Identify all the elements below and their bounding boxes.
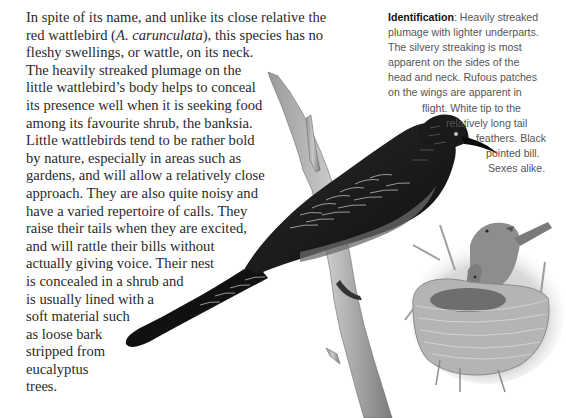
nest-scene xyxy=(405,222,565,392)
identification-caption: Identification: Heavily streaked plumage… xyxy=(388,10,554,176)
text-line: In spite of its name, and unlike its clo… xyxy=(26,9,326,27)
caption-line: on the wings are apparent in xyxy=(388,85,554,100)
caption-line: The silvery streaking is most xyxy=(388,40,554,55)
text-line: trees. xyxy=(26,378,326,396)
identification-label: Identification xyxy=(388,11,454,23)
text-line: red wattlebird (A. carunculata), this sp… xyxy=(26,27,326,45)
text-line: is usually lined with a xyxy=(26,291,326,309)
caption-line: head and neck. Rufous patches xyxy=(388,70,554,85)
caption-line: Identification: Heavily streaked xyxy=(388,10,554,25)
text-line: raise their tails when they are excited, xyxy=(26,220,326,238)
text-line: fleshy swellings, or wattle, on its neck… xyxy=(26,44,326,62)
text-line: little wattlebird’s body helps to concea… xyxy=(26,79,326,97)
text-line: its presence well when it is seeking foo… xyxy=(26,97,326,115)
text-line: approach. They are also quite noisy and xyxy=(26,185,326,203)
text-line: stripped from xyxy=(26,343,326,361)
text-line: as loose bark xyxy=(26,326,326,344)
text-line: soft material such xyxy=(26,308,326,326)
text-line: Little wattlebirds tend to be rather bol… xyxy=(26,132,326,150)
caption-line: feathers. Black xyxy=(388,131,554,146)
text-line: among its favourite shrub, the banksia. xyxy=(26,115,326,133)
text-line: is concealed in a shrub and xyxy=(26,273,326,291)
text-line: The heavily streaked plumage on the xyxy=(26,62,326,80)
text-line: and will rattle their bills without xyxy=(26,238,326,256)
caption-line: pointed bill. xyxy=(388,146,554,161)
text-line: by nature, especially in areas such as xyxy=(26,150,326,168)
text-line: actually giving voice. Their nest xyxy=(26,255,326,273)
caption-line: flight. White tip to the xyxy=(388,101,554,116)
caption-line: relatively long tail xyxy=(388,116,554,131)
text-line: have a varied repertoire of calls. They xyxy=(26,203,326,221)
main-paragraph: In spite of its name, and unlike its clo… xyxy=(26,9,326,396)
caption-line: plumage with lighter underparts. xyxy=(388,25,554,40)
text-line: gardens, and will allow a relatively clo… xyxy=(26,167,326,185)
scientific-name: A. carunculata xyxy=(116,27,203,43)
caption-line: apparent on the sides of the xyxy=(388,55,554,70)
text-line: eucalyptus xyxy=(26,361,326,379)
caption-line: Sexes alike. xyxy=(388,161,554,176)
